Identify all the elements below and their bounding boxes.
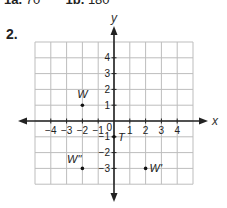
x-tick-label: −3 (61, 125, 73, 136)
y-axis-label: y (110, 11, 118, 25)
x-tick-label: −2 (77, 125, 89, 136)
x-tick-label: 2 (143, 125, 149, 136)
point-label: W (77, 88, 89, 100)
y-tick-label: 3 (104, 68, 110, 79)
point-label: W' (150, 162, 163, 174)
point-w (81, 167, 85, 171)
x-tick-label: 1 (127, 125, 133, 136)
point-w (144, 167, 148, 171)
x-tick-label: −4 (45, 125, 57, 136)
y-tick-label: −1 (99, 131, 111, 142)
x-axis-label: x (211, 114, 219, 128)
point-w (81, 103, 85, 107)
y-tick-label: 2 (104, 84, 110, 95)
y-tick-label: −3 (99, 163, 111, 174)
y-tick-label: 1 (104, 100, 110, 111)
coordinate-plane: xy−4−3−2−1123404321−1−2−3WTW"W' (0, 0, 227, 208)
y-tick-label: 4 (104, 52, 110, 63)
x-axis-left-arrow-icon (18, 118, 27, 125)
point-t (112, 135, 116, 139)
x-tick-label: 3 (159, 125, 165, 136)
x-axis-right-arrow-icon (199, 118, 208, 125)
y-axis-up-arrow-icon (111, 26, 118, 35)
point-label: W" (67, 153, 82, 165)
y-axis-down-arrow-icon (111, 193, 118, 202)
x-tick-label: 4 (174, 125, 180, 136)
y-tick-label: −2 (99, 147, 111, 158)
